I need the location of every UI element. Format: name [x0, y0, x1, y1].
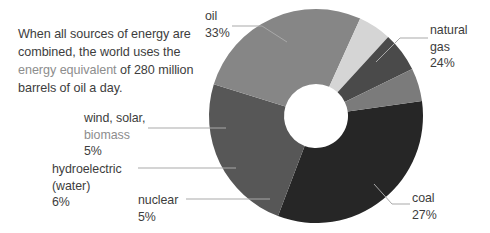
slice-label-oil: oil 33%	[205, 8, 230, 41]
slice-label-wind-solar-biomass: wind, solar, biomass 5%	[84, 110, 145, 160]
slice-label-gas-value: 24%	[430, 55, 468, 72]
slice-label-wind-name: wind, solar,	[84, 110, 145, 127]
slice-label-hydro-value: 6%	[52, 194, 122, 211]
slice-label-coal-value: 27%	[412, 207, 437, 224]
slice-label-nuclear-value: 5%	[138, 209, 178, 226]
donut-slice-oil	[278, 101, 423, 223]
slice-label-oil-name: oil	[205, 8, 230, 25]
energy-donut-figure: When all sources of energy are combined,…	[0, 0, 490, 233]
slice-label-coal: coal 27%	[412, 190, 437, 223]
slice-label-wind-name2: biomass	[84, 127, 145, 144]
slice-label-hydro-name: hydroelectric	[52, 161, 122, 178]
slice-label-nuclear: nuclear 5%	[138, 192, 178, 225]
slice-label-hydroelectric: hydroelectric (water) 6%	[52, 161, 122, 211]
slice-label-natural-gas: natural gas 24%	[430, 22, 468, 72]
slice-label-wind-value: 5%	[84, 143, 145, 160]
donut-slices	[209, 9, 423, 223]
slice-label-gas-name: natural	[430, 22, 468, 39]
slice-label-coal-name: coal	[412, 190, 437, 207]
slice-label-hydro-name2: (water)	[52, 178, 122, 195]
slice-label-oil-value: 33%	[205, 25, 230, 42]
slice-label-gas-name2: gas	[430, 39, 468, 56]
slice-label-nuclear-name: nuclear	[138, 192, 178, 209]
